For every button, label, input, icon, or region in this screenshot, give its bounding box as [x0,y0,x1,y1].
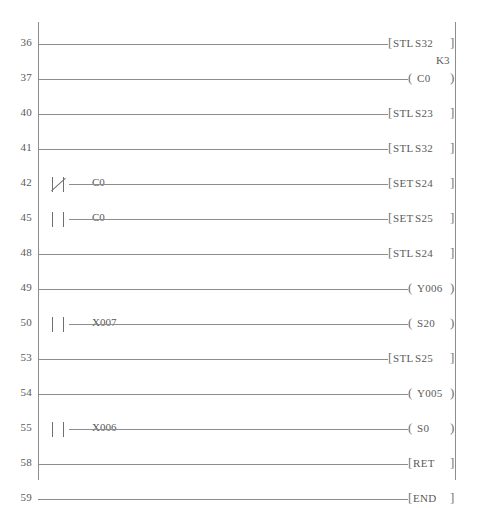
rung[interactable]: 40[STLS23] [0,94,484,129]
instruction-open-bracket: [ [388,245,392,261]
rung[interactable]: 36[STLS32] [0,24,484,59]
contact-label: C0 [92,211,105,223]
coil-open-bracket: ( [408,70,412,86]
rung-wire [38,44,388,45]
rung-number: 53 [0,351,32,364]
rung-number: 37 [0,71,32,84]
contact-label: X006 [92,421,116,433]
instruction-open-bracket: [ [388,140,392,156]
rung-wire [69,184,388,185]
instruction-open-bracket: [ [388,35,392,51]
instruction-close-bracket: ] [450,105,454,121]
rung[interactable]: 48[STLS24] [0,234,484,269]
rung-number: 59 [0,491,32,504]
instruction-open-bracket: [ [388,175,392,191]
instruction-mnemonic: END [413,491,437,505]
contact-bar [52,212,53,227]
instruction-close-bracket: ] [450,210,454,226]
normally-open-contact[interactable]: C0 [47,212,69,227]
rung-wire [38,464,408,465]
rung-number: 54 [0,386,32,399]
contact-bar [63,422,64,437]
coil-open-bracket: ( [408,385,412,401]
contact-bar [63,317,64,332]
coil-close-bracket: ) [450,385,454,401]
rung[interactable]: 42C0[SETS24] [0,164,484,199]
rung[interactable]: 41[STLS32] [0,129,484,164]
normally-open-contact[interactable]: X006 [47,422,69,437]
instruction-close-bracket: ] [450,245,454,261]
instruction-mnemonic: RET [413,456,435,470]
contact-label: C0 [92,176,105,188]
normally-open-contact[interactable]: X007 [47,317,69,332]
coil-close-bracket: ) [450,420,454,436]
rung-wire [69,324,408,325]
rung[interactable]: 45C0[SETS25] [0,199,484,234]
coil-operand: C0 [417,71,430,85]
rung[interactable]: 55X006(S0) [0,409,484,444]
instruction-close-bracket: ] [450,140,454,156]
instruction-open-bracket: [ [408,490,412,506]
rung-wire [69,429,408,430]
instruction-mnemonic: SET [393,176,413,190]
instruction-operand: S25 [415,211,433,225]
rung-number: 50 [0,316,32,329]
rung-number: 58 [0,456,32,469]
rung-number: 49 [0,281,32,294]
instruction-open-bracket: [ [388,105,392,121]
rung-wire [38,289,408,290]
instruction-mnemonic: STL [393,36,413,50]
instruction-close-bracket: ] [450,490,454,506]
rung[interactable]: 58[RET] [0,444,484,479]
contact-bar [52,317,53,332]
coil-close-bracket: ) [450,280,454,296]
rung[interactable]: 54(Y005) [0,374,484,409]
rung[interactable]: 53[STLS25] [0,339,484,374]
rung[interactable]: 37(C0K3) [0,59,484,94]
rung-number: 55 [0,421,32,434]
coil-open-bracket: ( [408,420,412,436]
normally-closed-contact[interactable]: C0 [47,177,69,192]
rung-wire [69,219,388,220]
contact-label: X007 [92,316,116,328]
coil-operand: Y005 [417,386,443,400]
instruction-operand: S32 [415,141,433,155]
instruction-mnemonic: STL [393,106,413,120]
coil-preset-value: K3 [436,54,449,67]
rung-number: 40 [0,106,32,119]
instruction-close-bracket: ] [450,35,454,51]
contact-bar [52,422,53,437]
instruction-open-bracket: [ [408,455,412,471]
instruction-mnemonic: STL [393,141,413,155]
rung-number: 45 [0,211,32,224]
rung-number: 42 [0,176,32,189]
instruction-mnemonic: STL [393,246,413,260]
contact-bar [63,212,64,227]
instruction-operand: S24 [415,176,433,190]
instruction-operand: S23 [415,106,433,120]
rung[interactable]: 49(Y006) [0,269,484,304]
rung-wire [38,149,388,150]
instruction-close-bracket: ] [450,455,454,471]
rung-wire [38,499,408,500]
rung-number: 48 [0,246,32,259]
rung-wire [38,114,388,115]
coil-operand: Y006 [417,281,443,295]
coil-operand: S0 [417,421,429,435]
instruction-mnemonic: STL [393,351,413,365]
instruction-operand: S24 [415,246,433,260]
coil-close-bracket: ) [450,70,454,86]
instruction-close-bracket: ] [450,350,454,366]
coil-close-bracket: ) [450,315,454,331]
instruction-operand: S25 [415,351,433,365]
rung[interactable]: 50X007(S20) [0,304,484,339]
rung-number: 36 [0,36,32,49]
instruction-open-bracket: [ [388,210,392,226]
instruction-mnemonic: SET [393,211,413,225]
instruction-close-bracket: ] [450,175,454,191]
instruction-open-bracket: [ [388,350,392,366]
rung-number: 41 [0,141,32,154]
instruction-operand: S32 [415,36,433,50]
rung[interactable]: 59[END] [0,479,484,508]
